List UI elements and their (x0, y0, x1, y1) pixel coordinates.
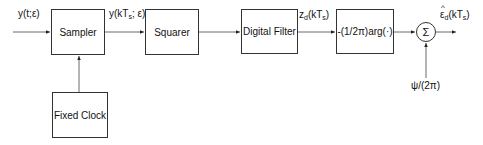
filtered-signal-label: zd(kTs) (299, 10, 329, 21)
offset-label: ψ/(2π) (411, 81, 440, 91)
output-signal-label: ^εd(kTs) (440, 10, 470, 21)
digital-filter-block: Digital Filter (241, 9, 298, 54)
fixed-clock-label: Fixed Clock (54, 110, 106, 121)
squarer-label: Squarer (154, 27, 190, 38)
summer-node: Σ (416, 22, 436, 42)
arg-block: -(1/2π)arg(·) (336, 9, 394, 54)
fixed-clock-block: Fixed Clock (52, 92, 108, 138)
digital-filter-label: Digital Filter (243, 26, 296, 37)
sigma-icon: Σ (423, 26, 430, 38)
sampler-block: Sampler (51, 9, 105, 55)
sampled-signal-label: y(kTs; ε) (109, 9, 145, 20)
arg-label: -(1/2π)arg(·) (337, 26, 392, 37)
sampler-label: Sampler (59, 27, 96, 38)
squarer-block: Squarer (145, 9, 199, 55)
input-signal-label: y(t;ε) (18, 9, 40, 19)
